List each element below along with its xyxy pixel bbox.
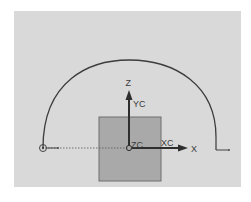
zc-label: ZC — [131, 140, 143, 150]
z-label: Z — [126, 78, 132, 88]
xc-label: XC — [161, 138, 174, 148]
x-label: X — [191, 144, 197, 154]
yc-label: YC — [133, 99, 146, 109]
sketch-canvas[interactable]: Z YC ZC XC X — [0, 0, 251, 202]
l-marker-icon[interactable] — [216, 137, 230, 151]
